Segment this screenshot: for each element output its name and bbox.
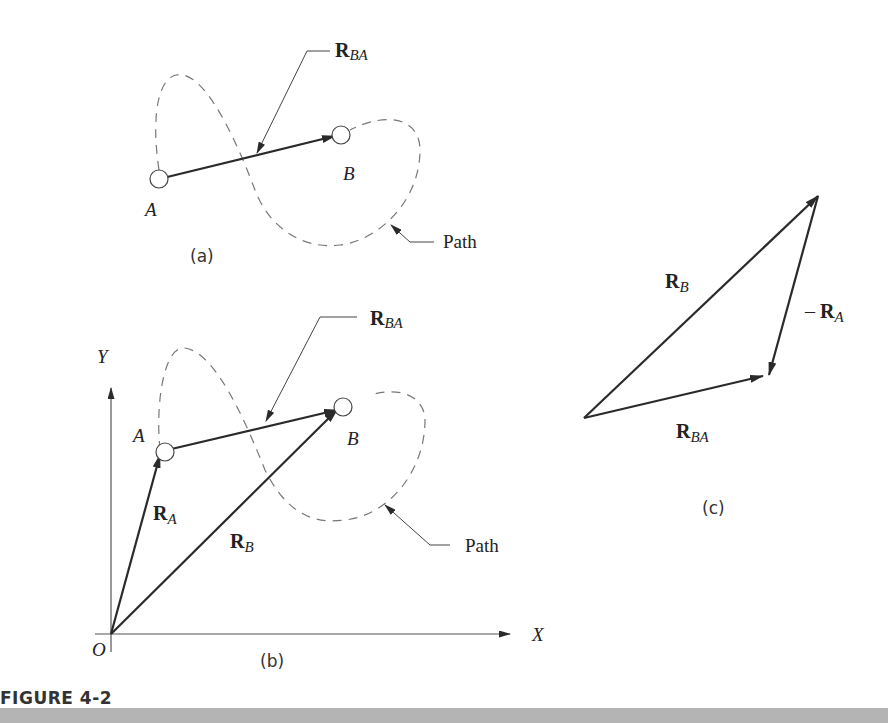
label-RB-b: RB (230, 530, 254, 555)
label-RBA-a: RBA (335, 39, 369, 63)
label-A-a: A (143, 199, 157, 220)
label-negRA-c: – RA (804, 300, 844, 325)
vector-RBA-b (163, 410, 337, 451)
label-A-b: A (131, 425, 145, 446)
label-B-a: B (343, 163, 355, 184)
label-RB-c: RB (665, 270, 689, 295)
position-difference-diagram: A B RBA Path (a) Y X O A B RA RB RBA Pat… (0, 0, 888, 723)
label-RBA-b: RBA (370, 307, 404, 331)
panel-b: Y X O A B RA RB RBA Path (b) (92, 307, 545, 671)
caption-rule (0, 708, 888, 723)
point-A-a (150, 170, 168, 188)
vector-negRA-c (769, 196, 818, 375)
label-path-b: Path (465, 535, 499, 556)
panel-c: RB – RA RBA (c) (584, 196, 844, 518)
label-RA-b: RA (153, 502, 177, 527)
label-origin: O (92, 639, 106, 660)
figure-caption: FIGURE 4-2 (0, 688, 112, 708)
label-panel-c: (c) (702, 498, 725, 518)
label-path-a: Path (443, 231, 477, 252)
panel-a: A B RBA Path (a) (143, 39, 477, 266)
label-Y-axis: Y (97, 346, 110, 367)
leader-RBA-a (257, 51, 330, 153)
vector-RB-b (111, 410, 337, 634)
point-B-b (334, 398, 352, 416)
label-B-b: B (347, 428, 359, 449)
leader-path-b (385, 505, 450, 545)
point-B-a (332, 126, 350, 144)
leader-path-a (391, 225, 434, 242)
vector-RBA-a (159, 136, 335, 179)
path-curve-b (159, 348, 425, 521)
vector-RBA-c (584, 376, 763, 418)
path-curve-a (156, 75, 420, 246)
vector-RA-b (111, 455, 160, 634)
label-panel-a: (a) (190, 246, 214, 266)
point-A-b (156, 443, 174, 461)
vector-RB-c (584, 196, 818, 418)
label-RBA-c: RBA (676, 420, 710, 445)
label-X-axis: X (531, 624, 545, 645)
label-panel-b: (b) (260, 651, 284, 671)
